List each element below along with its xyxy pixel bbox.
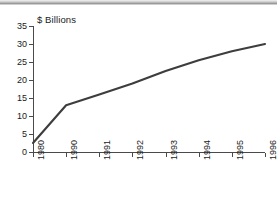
- plot-svg: [0, 5, 277, 200]
- data-series-line: [33, 44, 265, 143]
- chart-page: $ Billions 05101520253035 19801990199119…: [0, 0, 277, 200]
- line-chart: $ Billions 05101520253035 19801990199119…: [0, 5, 277, 200]
